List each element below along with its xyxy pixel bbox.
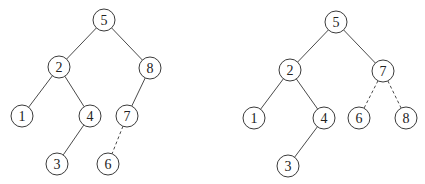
tree-node-8: 8 <box>395 107 417 129</box>
tree-node-1: 1 <box>11 105 33 127</box>
right-tree: 52714683 <box>243 11 417 177</box>
node-label: 2 <box>56 60 63 75</box>
tree-diagram-canvas: 52814736 52714683 <box>0 0 425 184</box>
tree-node-5: 5 <box>325 11 347 33</box>
edge-5-2 <box>67 28 97 59</box>
edge-2-4 <box>65 76 84 106</box>
edge-2-1 <box>261 79 284 109</box>
left-tree: 52814736 <box>11 9 161 175</box>
tree-node-8: 8 <box>139 57 161 79</box>
node-label: 5 <box>101 13 108 28</box>
node-label: 4 <box>321 111 328 126</box>
node-label: 8 <box>147 61 154 76</box>
node-label: 5 <box>333 15 340 30</box>
edge-8-7 <box>132 78 145 106</box>
node-label: 7 <box>380 64 387 79</box>
edge-7-8 <box>388 81 401 108</box>
tree-node-2: 2 <box>279 59 301 81</box>
edge-2-1 <box>29 76 53 107</box>
edge-5-2 <box>298 30 329 62</box>
node-label: 4 <box>87 109 94 124</box>
tree-node-2: 2 <box>48 56 70 78</box>
node-label: 3 <box>54 157 61 172</box>
tree-node-3: 3 <box>277 155 299 177</box>
node-label: 8 <box>403 111 410 126</box>
tree-node-7: 7 <box>116 105 138 127</box>
tree-node-4: 4 <box>313 107 335 129</box>
tree-node-3: 3 <box>46 153 68 175</box>
node-label: 1 <box>251 111 258 126</box>
edge-4-3 <box>295 127 318 157</box>
tree-node-4: 4 <box>79 105 101 127</box>
edge-4-3 <box>63 125 84 155</box>
edge-2-4 <box>296 79 317 109</box>
tree-node-7: 7 <box>372 60 394 82</box>
node-label: 6 <box>356 111 363 126</box>
edges <box>29 28 146 155</box>
edge-5-7 <box>344 30 376 63</box>
edge-5-8 <box>112 28 143 60</box>
edge-7-6 <box>112 126 123 154</box>
tree-node-1: 1 <box>243 107 265 129</box>
edge-7-6 <box>364 81 378 108</box>
tree-node-5: 5 <box>93 9 115 31</box>
edges <box>261 30 402 157</box>
node-label: 1 <box>19 109 26 124</box>
node-label: 6 <box>105 157 112 172</box>
node-label: 2 <box>287 63 294 78</box>
node-label: 7 <box>124 109 131 124</box>
node-label: 3 <box>285 159 292 174</box>
tree-node-6: 6 <box>97 153 119 175</box>
tree-node-6: 6 <box>348 107 370 129</box>
